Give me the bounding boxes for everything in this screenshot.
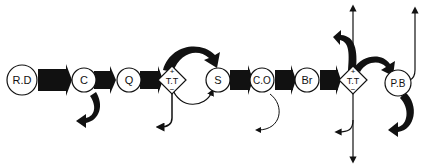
thin-curved-arrow-co-out [258,94,279,130]
svg-text:+: + [170,67,175,76]
thick-curved-arrow-pb-out [388,92,414,137]
svg-text:Br: Br [302,74,313,86]
node-c: C [72,68,96,92]
thick-curved-arrow-c-out [76,92,100,128]
svg-text:+: + [351,67,356,76]
node-tt2: T.T + − [339,66,367,94]
svg-text:−: − [351,85,356,94]
node-tt1: T.T + − [158,66,186,94]
svg-text:−: − [170,85,175,94]
node-co: C.O [250,68,274,92]
svg-text:Q: Q [125,74,134,86]
thick-arrow-rd-c [38,64,72,96]
thick-arrow-c-q [94,66,116,94]
thick-arrow-co-br [275,65,296,95]
node-rd: R.D [7,65,37,95]
thin-arrow-tt2-down-left [338,120,353,132]
svg-text:C: C [80,74,88,86]
node-s: S [206,68,230,92]
svg-text:C.O: C.O [253,75,271,86]
svg-text:R.D: R.D [13,74,32,86]
node-br: Br [295,68,319,92]
thin-arrow-tt1-out [160,90,172,127]
svg-text:P.B: P.B [391,78,406,89]
node-q: Q [117,68,141,92]
thin-arrow-pb-up [410,10,415,80]
node-pb: P.B [385,70,411,96]
thin-curved-arrow-tt1-s [172,88,212,104]
svg-text:S: S [214,74,221,86]
thick-arrow-br-tt2 [320,65,341,95]
flow-diagram: R.D C Q T.T + − S C.O Br T.T + − P.B [0,0,421,167]
